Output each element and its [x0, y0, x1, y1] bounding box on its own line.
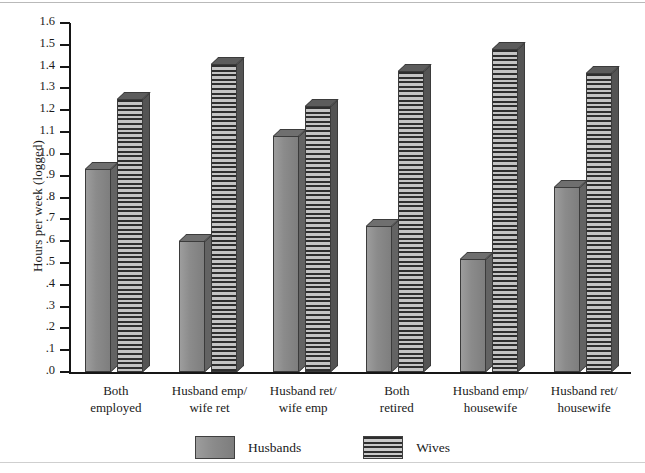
x-category-label-3: Husband ret/wife emp	[256, 382, 350, 416]
legend-entry-husbands: Husbands	[195, 436, 301, 459]
bar-wives-6	[586, 73, 612, 372]
bar-front-face	[460, 259, 486, 372]
bar-side-face	[331, 99, 338, 372]
y-tick-label: 1.5	[39, 36, 55, 51]
y-tick: .1	[60, 349, 70, 351]
bar-side-face	[424, 64, 431, 372]
y-tick: 1.6	[60, 22, 70, 24]
bar-wives-2	[211, 64, 237, 372]
y-tick-label: 1.0	[39, 145, 55, 160]
legend-swatch-husbands	[195, 436, 235, 459]
x-category-label-line2: wife ret	[163, 399, 257, 416]
y-tick-label: 1.6	[39, 14, 55, 29]
bar-front-face	[305, 106, 331, 372]
bar-chart-figure: Hours per week (logged) 1.61.51.41.31.21…	[0, 0, 645, 473]
bar-front-face	[554, 187, 580, 372]
bar-wives-4	[398, 71, 424, 372]
x-category-label-line2: employed	[69, 399, 163, 416]
y-tick-label: .1	[46, 341, 55, 356]
bar-front-face	[85, 169, 111, 372]
bar-husbands-5	[460, 259, 486, 372]
x-category-label-line2: wife emp	[256, 399, 350, 416]
bar-husbands-2	[179, 241, 205, 372]
bar-side-face	[237, 58, 244, 372]
y-tick: .5	[60, 262, 70, 264]
x-category-label-1: Bothemployed	[69, 382, 163, 416]
legend-swatch-wives	[363, 436, 403, 459]
legend-label-husbands: Husbands	[248, 440, 301, 456]
y-tick: 1.4	[60, 66, 70, 68]
page-top-rule	[0, 2, 645, 3]
legend-entry-wives: Wives	[363, 436, 450, 459]
x-category-label-line2: housewife	[444, 399, 538, 416]
chart-legend: Husbands Wives	[0, 436, 645, 459]
bar-front-face	[211, 64, 237, 372]
bar-husbands-1	[85, 169, 111, 372]
bar-side-face	[612, 67, 619, 372]
plot-area: 1.61.51.41.31.21.11.0.9.8.7.6.5.4.3.2.1.…	[69, 23, 631, 372]
bar-husbands-3	[273, 136, 299, 372]
x-category-label-line2: housewife	[537, 399, 631, 416]
y-tick: .2	[60, 327, 70, 329]
y-tick: .7	[60, 218, 70, 220]
page-bottom-rule	[0, 462, 645, 463]
x-category-label-2: Husband emp/wife ret	[163, 382, 257, 416]
y-tick-label: .3	[46, 298, 55, 313]
y-tick: .9	[60, 175, 70, 177]
x-category-label-line1: Husband emp/	[444, 382, 538, 399]
bar-front-face	[273, 136, 299, 372]
y-tick: 1.0	[60, 153, 70, 155]
x-category-label-6: Husband ret/housewife	[537, 382, 631, 416]
bar-wives-5	[492, 49, 518, 372]
bar-front-face	[586, 73, 612, 372]
bar-side-face	[518, 43, 525, 372]
y-tick-label: .5	[46, 254, 55, 269]
y-tick-label: 1.1	[39, 123, 55, 138]
y-tick: .4	[60, 284, 70, 286]
y-tick-label: .2	[46, 319, 55, 334]
x-category-label-line1: Husband ret/	[537, 382, 631, 399]
bar-front-face	[366, 226, 392, 372]
y-tick-label: 1.3	[39, 79, 55, 94]
bar-front-face	[398, 71, 424, 372]
bar-front-face	[492, 49, 518, 372]
bar-wives-1	[117, 99, 143, 372]
y-tick: 1.3	[60, 87, 70, 89]
bar-wives-3	[305, 106, 331, 372]
y-tick: 1.1	[60, 131, 70, 133]
x-axis-line	[69, 372, 631, 374]
y-tick-label: 1.2	[39, 101, 55, 116]
y-tick: 1.2	[60, 109, 70, 111]
bar-front-face	[117, 99, 143, 372]
x-category-label-line1: Both	[69, 382, 163, 399]
y-tick-label: .6	[46, 232, 55, 247]
y-tick-label: 1.4	[39, 58, 55, 73]
y-tick-label: .0	[46, 363, 55, 378]
x-category-label-5: Husband emp/housewife	[444, 382, 538, 416]
y-tick-label: .9	[46, 167, 55, 182]
x-category-label-line1: Husband emp/	[163, 382, 257, 399]
x-category-label-line2: retired	[350, 399, 444, 416]
legend-label-wives: Wives	[416, 440, 450, 456]
y-tick: 1.5	[60, 44, 70, 46]
x-category-label-4: Bothretired	[350, 382, 444, 416]
bar-front-face	[179, 241, 205, 372]
bar-husbands-6	[554, 187, 580, 372]
x-category-label-line1: Husband ret/	[256, 382, 350, 399]
bar-side-face	[143, 93, 150, 372]
y-tick: .0	[60, 371, 70, 373]
x-category-label-line1: Both	[350, 382, 444, 399]
y-tick-label: .7	[46, 210, 55, 225]
y-tick: .6	[60, 240, 70, 242]
y-tick: .8	[60, 197, 70, 199]
y-tick-label: .4	[46, 276, 55, 291]
bar-husbands-4	[366, 226, 392, 372]
y-tick: .3	[60, 306, 70, 308]
y-tick-label: .8	[46, 189, 55, 204]
